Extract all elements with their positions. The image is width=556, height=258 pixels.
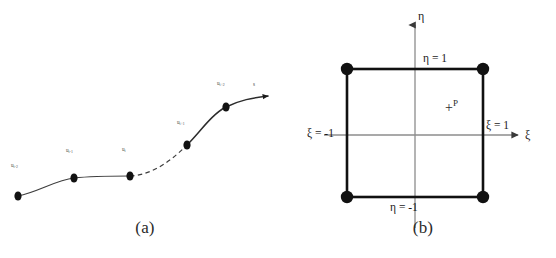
caption-a: (a) <box>0 218 290 238</box>
corner-node <box>477 63 489 75</box>
eta-axis-label: η <box>418 10 424 22</box>
eta-bottom-edge-label: η = -1 <box>390 202 418 214</box>
plus-icon: + <box>445 100 453 115</box>
xi-right-edge-label: ξ = 1 <box>486 120 509 132</box>
node-label-n4: ui+1 <box>177 120 185 126</box>
node-marker <box>183 140 190 149</box>
node-label-n3: ui <box>122 147 126 153</box>
corner-node <box>341 63 353 75</box>
node-label-n2: ui-1 <box>66 148 73 154</box>
curve-dashed-middle <box>130 145 187 176</box>
node-marker <box>14 191 21 200</box>
node-label-n1: ui-2 <box>11 163 18 169</box>
panel-a: ui-2 ui-1 ui ui+1 ui+2 s (a) <box>0 0 290 258</box>
caption-b: (b) <box>290 218 556 238</box>
node-marker <box>70 173 77 182</box>
corner-node <box>477 191 489 203</box>
node-marker <box>126 171 133 180</box>
xi-left-edge-label: ξ = -1 <box>307 128 334 140</box>
node-label-n5: ui+2 <box>217 81 225 87</box>
corner-node <box>341 191 353 203</box>
eta-top-edge-label: η = 1 <box>423 53 447 65</box>
xi-axis-label: ξ <box>525 129 530 141</box>
node-marker <box>222 102 229 111</box>
arc-length-label: s <box>253 82 255 87</box>
figure-container: ui-2 ui-1 ui ui+1 ui+2 s (a) <box>0 0 556 258</box>
point-p-marker: +P <box>445 99 458 115</box>
panel-b: η ξ η = 1 η = -1 ξ = -1 ξ = 1 +P (b) <box>290 0 556 258</box>
